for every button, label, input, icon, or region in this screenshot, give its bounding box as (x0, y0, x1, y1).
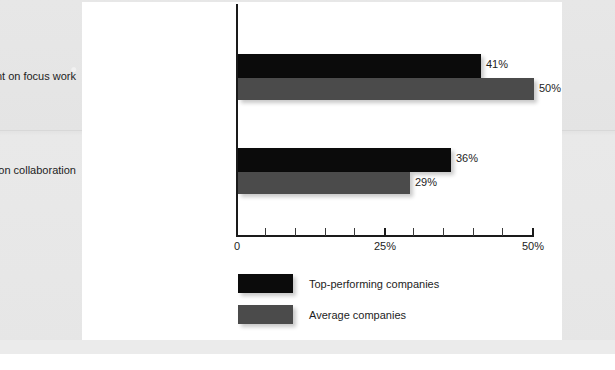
x-tick-50 (532, 228, 534, 237)
bar-collaboration-average (238, 172, 410, 194)
x-tick-20 (354, 228, 355, 236)
legend-label-top-performing: Top-performing companies (309, 278, 439, 290)
bar-focus-work-top-performing (238, 54, 481, 78)
y-axis-line (236, 4, 238, 237)
bar-value-collaboration-average: 29% (415, 176, 437, 188)
category-label-collaboration: Time spent on collaboration (0, 164, 76, 176)
x-tick-label-25: 25% (374, 240, 396, 252)
x-tick-25 (384, 228, 386, 237)
bar-value-focus-work-average: 50% (539, 82, 561, 94)
x-tick-30 (413, 228, 414, 236)
bar-value-focus-work-top-performing: 41% (486, 58, 508, 70)
paper-bottom-band (0, 340, 615, 354)
x-tick-0 (236, 228, 238, 237)
x-tick-label-0: 0 (234, 240, 240, 252)
chart-panel: 0 25% 50% Time spent on focus work 41% 5… (82, 2, 562, 340)
legend-swatch-top-performing (238, 274, 293, 293)
bar-collaboration-top-performing (238, 148, 451, 172)
x-tick-45 (502, 228, 503, 236)
legend-swatch-average (238, 305, 293, 324)
x-tick-35 (443, 228, 444, 236)
category-label-focus-work: Time spent on focus work (0, 70, 76, 82)
bar-value-collaboration-top-performing: 36% (456, 152, 478, 164)
scanned-chart-page: 0 25% 50% Time spent on focus work 41% 5… (0, 0, 615, 370)
x-tick-15 (325, 228, 326, 236)
bar-focus-work-average (238, 78, 534, 100)
x-tick-10 (295, 228, 296, 236)
x-tick-label-50: 50% (522, 240, 544, 252)
x-tick-40 (473, 228, 474, 236)
legend-label-average: Average companies (309, 309, 406, 321)
x-tick-5 (265, 228, 266, 236)
